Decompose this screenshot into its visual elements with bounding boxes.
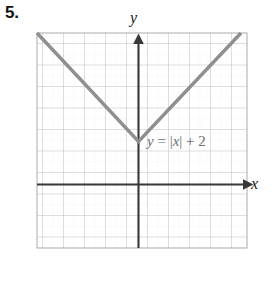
x-axis-label: x [251,176,258,192]
equation-equals: = [157,133,165,149]
equation-lhs: y [147,133,154,149]
y-axis-label: y [130,10,137,26]
equation-plus: + [186,133,194,149]
coordinate-graph [0,0,276,285]
equation-constant: 2 [198,133,206,149]
worksheet-figure: 5. y [0,0,276,285]
equation-label: y = |x| + 2 [147,134,206,149]
